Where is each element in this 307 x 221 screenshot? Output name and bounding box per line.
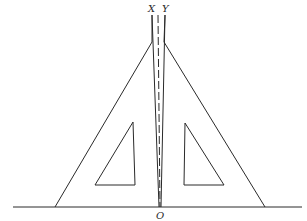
label-x: X [147,3,156,14]
label-y: Y [162,3,170,14]
right-set-square [161,15,265,207]
label-origin: O [156,210,164,221]
left-inner-cutout [95,122,135,185]
set-squares-diagram: X Y O [0,0,307,221]
left-set-square [55,15,159,207]
right-inner-cutout [184,123,224,185]
